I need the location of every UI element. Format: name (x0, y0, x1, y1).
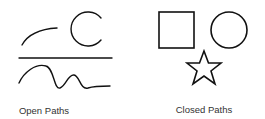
closed-square (159, 12, 194, 48)
open-circle-arc (71, 12, 101, 46)
paths-diagram (0, 0, 265, 119)
closed-paths-label: Closed Paths (176, 104, 233, 115)
open-arc-curve (22, 28, 57, 45)
open-paths-label: Open Paths (19, 105, 69, 116)
open-wavy-line (19, 65, 110, 88)
open-paths-group (19, 12, 112, 88)
closed-paths-group (159, 12, 247, 84)
closed-star (187, 51, 221, 84)
closed-circle (211, 12, 247, 48)
